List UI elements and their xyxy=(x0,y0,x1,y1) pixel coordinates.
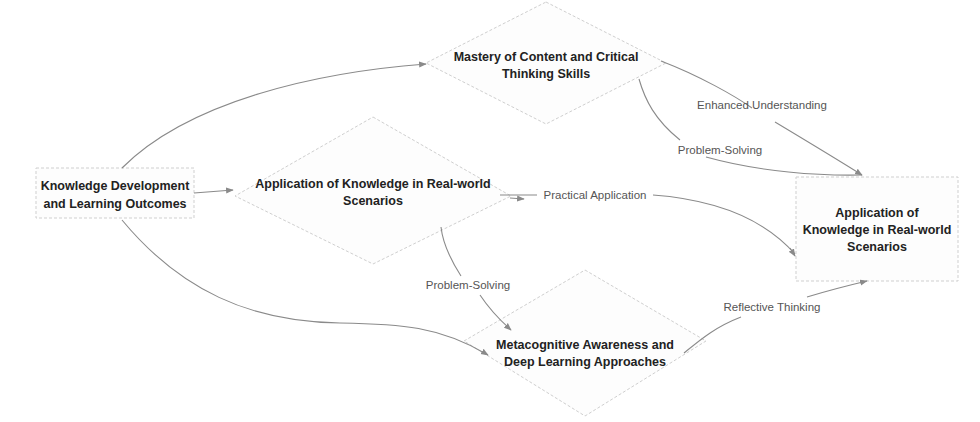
node-application-mid-line-2: Scenarios xyxy=(343,194,403,208)
edge-practical-arrow-right xyxy=(790,248,795,256)
node-application-right-line-2: Knowledge in Real-world xyxy=(803,223,952,237)
edge-mastery-problem-solving xyxy=(639,79,862,175)
edge-knowledge-to-application-mid xyxy=(194,190,233,193)
node-knowledge-development-line-1: Knowledge Development xyxy=(41,179,190,193)
node-application-mid-line-1: Application of Knowledge in Real-world xyxy=(255,177,490,191)
edge-application-practical xyxy=(653,195,795,254)
edge-mastery-enhanced-understanding xyxy=(661,61,862,175)
diagram-canvas: Knowledge Development and Learning Outco… xyxy=(0,0,980,422)
node-mastery-line-2: Thinking Skills xyxy=(502,67,590,81)
edge-label-problem-solving-top: Problem-Solving xyxy=(678,144,762,156)
node-metacognitive-awareness[interactable]: Metacognitive Awareness and Deep Learnin… xyxy=(464,270,706,416)
node-metacognitive-line-1: Metacognitive Awareness and xyxy=(496,338,674,352)
node-mastery-of-content[interactable]: Mastery of Content and Critical Thinking… xyxy=(426,2,666,124)
edge-label-problem-solving-bottom: Problem-Solving xyxy=(426,279,510,291)
node-application-right-line-1: Application of xyxy=(835,206,919,220)
edge-metacognitive-reflective-thinking xyxy=(684,281,867,353)
node-knowledge-development-line-2: and Learning Outcomes xyxy=(43,197,186,211)
node-mastery-line-1: Mastery of Content and Critical xyxy=(454,50,639,64)
node-knowledge-development[interactable]: Knowledge Development and Learning Outco… xyxy=(36,168,194,218)
node-application-right[interactable]: Application of Knowledge in Real-world S… xyxy=(796,177,958,281)
edge-label-enhanced-understanding: Enhanced Understanding xyxy=(697,99,827,111)
edge-label-reflective-thinking: Reflective Thinking xyxy=(724,301,821,313)
edge-label-practical-application: Practical Application xyxy=(544,189,647,201)
node-metacognitive-line-2: Deep Learning Approaches xyxy=(504,355,666,369)
node-application-mid[interactable]: Application of Knowledge in Real-world S… xyxy=(235,117,511,264)
node-application-right-line-3: Scenarios xyxy=(847,240,907,254)
